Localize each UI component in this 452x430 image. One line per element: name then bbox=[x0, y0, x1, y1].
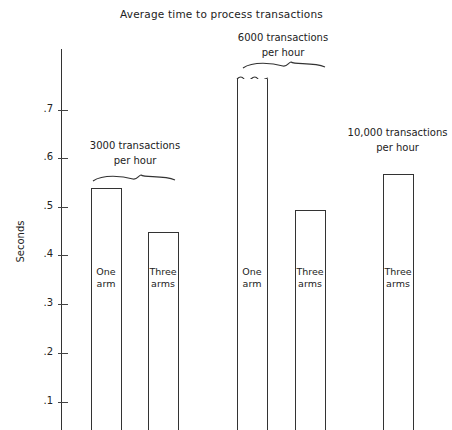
bar-label-line1: Three bbox=[295, 266, 325, 278]
bar-label-line1: One bbox=[91, 266, 121, 278]
bar-label-line1: Three bbox=[148, 266, 178, 278]
group-label-line1: 3000 transactions bbox=[80, 138, 190, 153]
y-tick bbox=[58, 110, 68, 111]
y-tick bbox=[58, 158, 68, 159]
group-label-line2: per hour bbox=[228, 45, 338, 60]
y-tick-label: .7 bbox=[33, 103, 53, 114]
group-label-line2: per hour bbox=[340, 140, 452, 155]
group-label-line1: 6000 transactions bbox=[228, 30, 338, 45]
bar-label-line2: arm bbox=[237, 278, 267, 290]
bar-label-line1: Three bbox=[383, 266, 413, 278]
group-label-10000: 10,000 transactions per hour bbox=[340, 125, 452, 155]
y-tick bbox=[58, 207, 68, 208]
y-tick bbox=[58, 353, 68, 354]
brace-icon bbox=[93, 174, 175, 184]
bar-label: One arm bbox=[91, 266, 121, 290]
bar-6000-three-arms bbox=[295, 210, 326, 430]
bar-label: Three arms bbox=[383, 266, 413, 290]
y-axis-line bbox=[61, 49, 62, 430]
group-label-line1: 10,000 transactions bbox=[340, 125, 452, 140]
bar-label-line2: arms bbox=[295, 278, 325, 290]
bar-3000-one-arm bbox=[91, 188, 122, 430]
bar-3000-three-arms bbox=[148, 232, 179, 430]
bar-label-line2: arms bbox=[383, 278, 413, 290]
bar-6000-one-arm bbox=[237, 79, 268, 430]
y-tick-label: .3 bbox=[33, 297, 53, 308]
y-axis-label: Seconds bbox=[15, 212, 26, 272]
y-tick-label: .6 bbox=[33, 151, 53, 162]
brace-icon bbox=[243, 61, 325, 71]
y-tick bbox=[58, 304, 68, 305]
group-label-line2: per hour bbox=[80, 153, 190, 168]
y-tick bbox=[58, 255, 68, 256]
bar-label: Three arms bbox=[295, 266, 325, 290]
y-tick-label: .4 bbox=[33, 248, 53, 259]
y-tick-label: .1 bbox=[33, 395, 53, 406]
group-label-6000: 6000 transactions per hour bbox=[228, 30, 338, 60]
y-tick-label: .2 bbox=[33, 346, 53, 357]
y-tick bbox=[58, 402, 68, 403]
bar-label-line2: arms bbox=[148, 278, 178, 290]
bar-label: Three arms bbox=[148, 266, 178, 290]
bar-label-line2: arm bbox=[91, 278, 121, 290]
group-label-3000: 3000 transactions per hour bbox=[80, 138, 190, 168]
chart-title: Average time to process transactions bbox=[0, 8, 443, 20]
bar-label: One arm bbox=[237, 266, 267, 290]
bar-label-line1: One bbox=[237, 266, 267, 278]
bar-10000-three-arms bbox=[383, 174, 414, 430]
y-tick-label: .5 bbox=[33, 200, 53, 211]
